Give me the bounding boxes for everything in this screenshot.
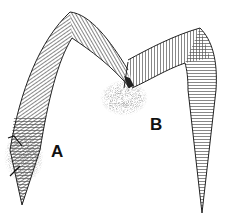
- left-arm: [10, 12, 72, 205]
- right-arm: [185, 28, 216, 213]
- middle-left-segment: [70, 12, 130, 88]
- m-shaped-structure-drawing: [0, 0, 228, 222]
- label-b: B: [150, 116, 162, 133]
- figure-canvas: A B: [0, 0, 228, 222]
- label-a: A: [51, 143, 63, 160]
